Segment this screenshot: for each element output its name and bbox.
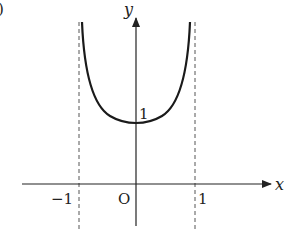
graph-figure: y x O −1 1 1 ) bbox=[0, 0, 286, 236]
x-tick-neg-one: −1 bbox=[51, 190, 73, 208]
x-axis-label: x bbox=[275, 175, 284, 194]
corner-mark: ) bbox=[0, 0, 4, 18]
y-axis-label: y bbox=[123, 0, 134, 19]
y-tick-one: 1 bbox=[139, 105, 149, 123]
x-tick-one: 1 bbox=[198, 190, 208, 208]
graph-canvas: y x O −1 1 1 ) bbox=[0, 0, 286, 236]
origin-label: O bbox=[118, 190, 130, 208]
